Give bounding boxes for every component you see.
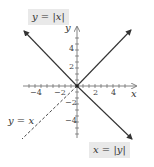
y-tick-label: −4 <box>65 117 77 125</box>
x-tick-label: 4 <box>111 89 116 97</box>
x-abs-y-label: x = |y| <box>89 142 130 158</box>
y-abs-x-label: y = |x| <box>28 9 69 25</box>
y-tick-label: 4 <box>69 45 74 53</box>
x-axis-label: x <box>131 88 137 99</box>
x-tick-label: −4 <box>30 89 42 97</box>
y-tick-label: −2 <box>65 99 77 107</box>
graph-figure: y x −4 −2 2 4 4 2 −2 −4 y = |x| x = |y| … <box>0 0 154 167</box>
origin-point <box>75 84 79 88</box>
x-abs-y-lower-branch <box>77 86 132 139</box>
y-tick-label: 2 <box>69 63 74 71</box>
graph-svg <box>0 0 154 167</box>
y-abs-x-right-branch <box>77 30 131 86</box>
x-tick-label: 2 <box>93 89 98 97</box>
y-abs-x-left-branch <box>24 31 77 86</box>
x-tick-label: −2 <box>54 89 66 97</box>
y-eq-x-label: y = x <box>8 115 34 126</box>
